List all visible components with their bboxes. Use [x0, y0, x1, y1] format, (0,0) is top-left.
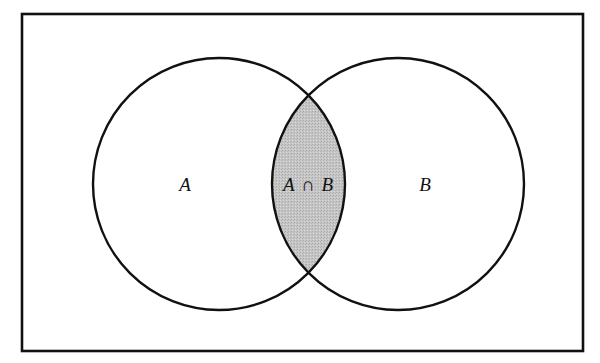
intersection-label-right: B: [321, 174, 333, 195]
intersection-label: A ∩ B: [281, 174, 334, 195]
intersection-label-left: A: [281, 174, 295, 195]
intersection-symbol: ∩: [301, 174, 315, 195]
set-a-label: A: [177, 174, 191, 195]
venn-diagram: A A ∩ B B: [0, 0, 600, 363]
set-b-label: B: [419, 174, 431, 195]
